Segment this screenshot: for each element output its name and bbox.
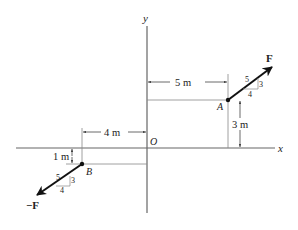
force-neg-f-slope-run: 4 [60, 186, 64, 195]
point-a-label: A [216, 101, 224, 112]
dim-3m-label: 3 m [232, 119, 248, 130]
dim-1m-label: 1 m [53, 151, 69, 162]
dim-5m-label: 5 m [175, 77, 191, 88]
couple-diagram: y x O 5 m 3 m A F 5 3 4 4 m 1 m B −F 5 3… [0, 0, 298, 230]
point-b-label: B [86, 166, 92, 177]
force-f-slope-hyp: 5 [245, 75, 249, 84]
force-f-slope-run: 4 [248, 90, 252, 99]
force-f-label: F [266, 52, 273, 64]
y-axis-label: y [142, 12, 148, 24]
force-neg-f-label: −F [26, 199, 39, 211]
force-f-slope-rise: 3 [259, 80, 263, 89]
force-neg-f-slope-hyp: 5 [56, 173, 60, 182]
dim-4m-label: 4 m [104, 127, 120, 138]
origin-label: O [150, 136, 157, 147]
force-neg-f-slope-rise: 3 [71, 176, 75, 185]
x-axis-label: x [277, 142, 283, 154]
